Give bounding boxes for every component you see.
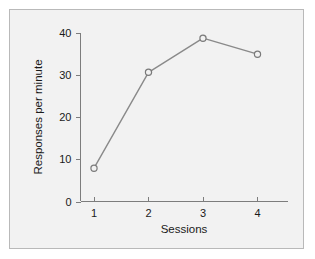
line-chart: 010203040 Responses per minute 1234 Sess… — [0, 0, 315, 259]
x-axis-title: Sessions — [161, 223, 208, 235]
y-tick-label: 10 — [59, 153, 71, 165]
y-axis-tick-labels: 010203040 — [59, 27, 71, 207]
data-point-marker — [254, 51, 260, 57]
y-tick-label: 0 — [65, 196, 71, 208]
data-point-marker — [91, 165, 97, 171]
y-tick-label: 40 — [59, 27, 71, 39]
x-tick-label: 4 — [254, 207, 260, 219]
y-axis-title: Responses per minute — [32, 59, 44, 174]
y-axis: 010203040 Responses per minute — [32, 27, 81, 207]
chart-figure: 010203040 Responses per minute 1234 Sess… — [0, 0, 315, 259]
y-tick-label: 20 — [59, 111, 71, 123]
y-tick-label: 30 — [59, 69, 71, 81]
x-tick-label: 1 — [91, 207, 97, 219]
y-axis-ticks — [76, 34, 81, 202]
series-line — [94, 38, 258, 168]
x-axis: 1234 Sessions — [81, 197, 289, 236]
x-axis-ticks — [94, 197, 258, 202]
data-point-marker — [200, 35, 206, 41]
x-axis-tick-labels: 1234 — [91, 207, 261, 219]
data-point-marker — [145, 69, 151, 75]
x-tick-label: 2 — [145, 207, 151, 219]
data-series — [91, 35, 261, 171]
x-tick-label: 3 — [200, 207, 206, 219]
